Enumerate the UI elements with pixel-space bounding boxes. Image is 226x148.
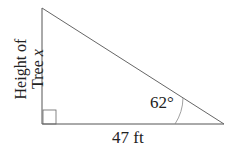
base-label: 47 ft — [112, 128, 144, 148]
height-label-line2: Tree x — [29, 34, 46, 104]
height-label-line1: Height of — [12, 34, 29, 104]
angle-arc — [175, 98, 183, 124]
right-angle-marker — [43, 110, 56, 124]
tree-text: Tree — [29, 56, 46, 89]
angle-label: 62° — [150, 93, 174, 113]
variable-x: x — [29, 49, 46, 56]
hypotenuse — [42, 8, 224, 124]
height-label: Height of Tree x — [12, 34, 42, 104]
